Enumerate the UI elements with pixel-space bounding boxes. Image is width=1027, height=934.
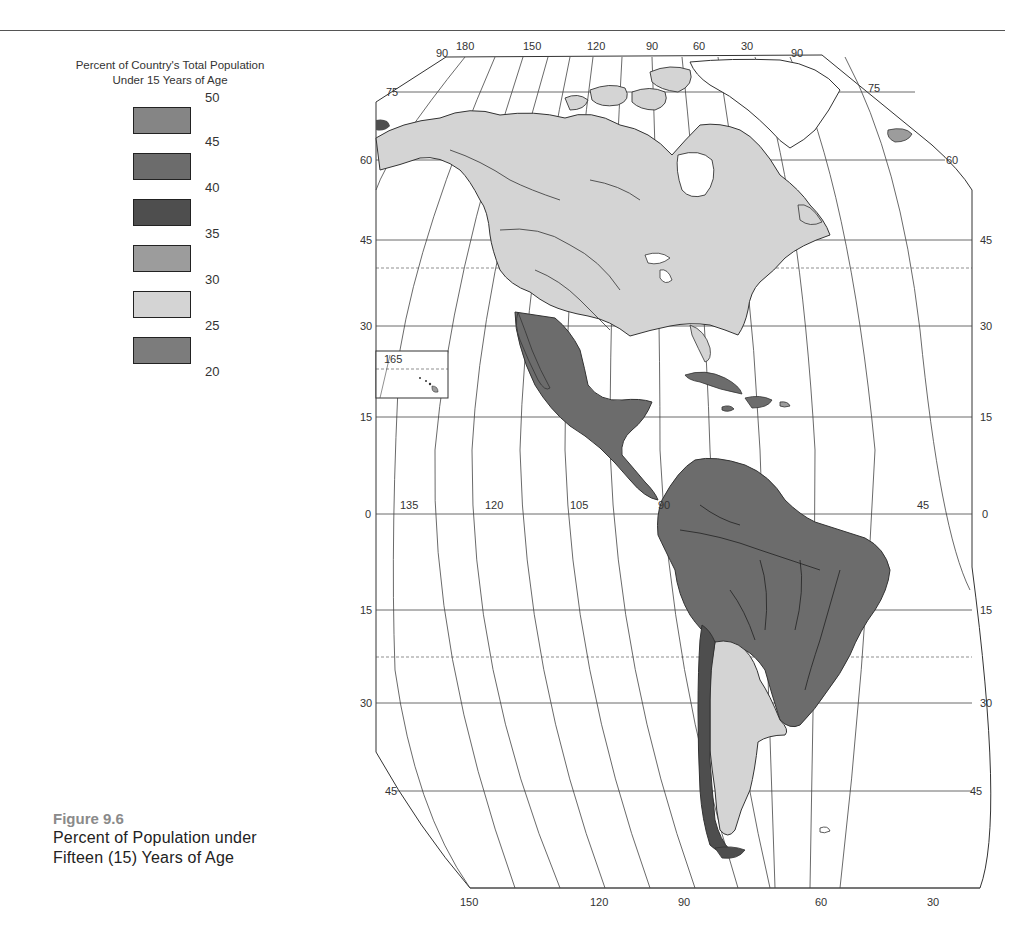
- latitude-label: 60: [360, 154, 372, 166]
- figure-number: Figure 9.6: [53, 810, 257, 828]
- longitude-label: 120: [587, 40, 605, 52]
- legend-swatch-45-50: [133, 107, 191, 134]
- longitude-label: 105: [570, 499, 588, 511]
- longitude-label: 150: [460, 896, 478, 908]
- longitude-label: 90: [791, 47, 803, 59]
- puerto-rico: [780, 402, 790, 407]
- south-america-north: [658, 458, 891, 726]
- legend-tick: 50: [205, 90, 219, 105]
- florida: [690, 325, 710, 362]
- latitude-label: 45: [970, 785, 982, 797]
- hawaii-inset: 165: [376, 351, 448, 398]
- cuba: [685, 372, 742, 394]
- longitude-label: 90: [678, 896, 690, 908]
- right-latitude-labels: 75 60 45 30 15 0 15 30 45: [868, 82, 992, 797]
- equator-longitude-labels: 135 120 105 90 45: [400, 499, 929, 511]
- latitude-label: 15: [360, 411, 372, 423]
- legend-tick: 25: [205, 318, 219, 333]
- longitude-label: 30: [927, 896, 939, 908]
- longitude-label: 150: [523, 40, 541, 52]
- legend-tick: 20: [205, 364, 219, 379]
- latitude-label: 30: [980, 697, 992, 709]
- legend-tick: 35: [205, 226, 219, 241]
- legend-swatch-35-40: [133, 199, 191, 226]
- latitude-label: 60: [946, 154, 958, 166]
- latitude-label: 0: [982, 508, 988, 520]
- legend-title: Percent of Country's Total Population Un…: [45, 58, 295, 88]
- latitude-label: 75: [386, 86, 398, 98]
- latitude-label: 30: [360, 697, 372, 709]
- legend-tick: 30: [205, 272, 219, 287]
- mexico-central-america: [515, 312, 658, 500]
- legend-tick: 45: [205, 134, 219, 149]
- legend-swatch-25-30: [133, 291, 191, 318]
- latitude-label: 45: [360, 234, 372, 246]
- latitude-label: 45: [385, 785, 397, 797]
- longitude-label: 90: [646, 40, 658, 52]
- legend-swatch-20-25: [133, 337, 191, 364]
- falkland-islands: [820, 827, 830, 833]
- chukotka-patch: [376, 120, 390, 131]
- latitude-label: 0: [365, 508, 371, 520]
- longitude-label: 30: [741, 40, 753, 52]
- figure-caption: Figure 9.6 Percent of Population under F…: [53, 810, 257, 868]
- americas-map: 165 90 180 150 120 90 60 30 90 75 60 45 …: [360, 30, 1027, 910]
- longitude-label: 45: [917, 499, 929, 511]
- jamaica: [722, 406, 734, 411]
- latitude-label: 30: [980, 320, 992, 332]
- bottom-longitude-labels: 150 120 90 60 30: [460, 896, 939, 908]
- legend-title-line1: Percent of Country's Total Population: [45, 58, 295, 73]
- latitude-label: 45: [980, 234, 992, 246]
- latitude-label: 15: [980, 411, 992, 423]
- legend-swatch-30-35: [133, 245, 191, 272]
- longitude-label: 90: [658, 499, 670, 511]
- caption-line2: Fifteen (15) Years of Age: [53, 848, 257, 868]
- longitude-label: 60: [693, 40, 705, 52]
- longitude-label: 120: [485, 499, 503, 511]
- legend-tick: 40: [205, 180, 219, 195]
- latitude-label: 15: [360, 604, 372, 616]
- longitude-label: 60: [815, 896, 827, 908]
- longitude-label: 120: [590, 896, 608, 908]
- legend-title-line2: Under 15 Years of Age: [45, 73, 295, 88]
- inset-longitude-label: 165: [384, 353, 402, 365]
- legend-rows: 50 45 40 35 30 25 20: [45, 92, 295, 392]
- caption-line1: Percent of Population under: [53, 828, 257, 848]
- latitude-label: 75: [868, 82, 880, 94]
- latitude-label: 15: [980, 604, 992, 616]
- longitude-label: 135: [400, 499, 418, 511]
- legend: Percent of Country's Total Population Un…: [45, 58, 295, 392]
- left-latitude-labels: 75 60 45 30 15 0 15 30 45: [360, 86, 398, 797]
- iceland: [888, 129, 912, 142]
- longitude-label: 180: [456, 40, 474, 52]
- latitude-label: 30: [360, 320, 372, 332]
- longitude-label: 90: [436, 47, 448, 59]
- legend-swatch-40-45: [133, 153, 191, 180]
- tierra-del-fuego: [715, 847, 745, 858]
- hispaniola: [745, 396, 772, 408]
